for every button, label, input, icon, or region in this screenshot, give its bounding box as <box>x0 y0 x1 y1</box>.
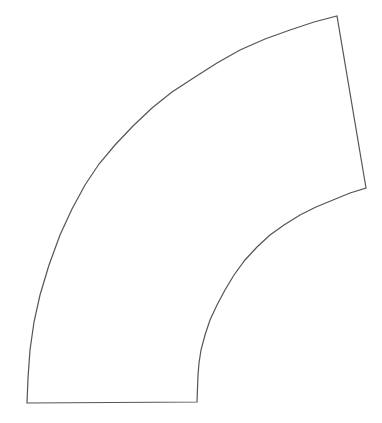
curved-band-outline <box>27 16 366 403</box>
annular-sector-diagram <box>0 0 382 423</box>
